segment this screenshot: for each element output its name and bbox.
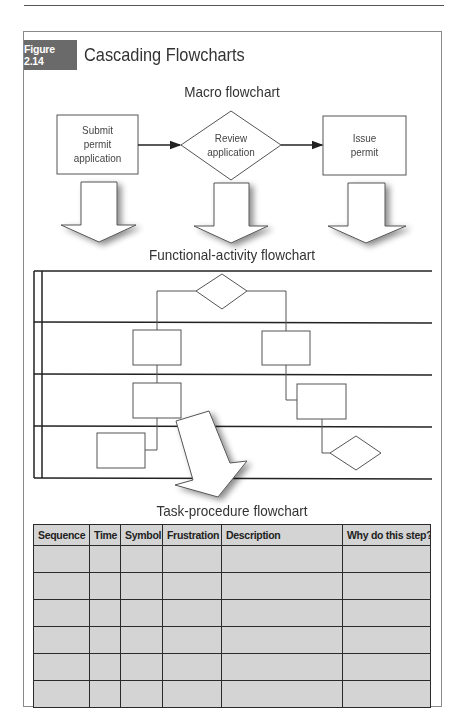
table-row <box>34 627 431 654</box>
macro-node-review-label: Review application <box>195 131 267 159</box>
table-cell <box>121 600 163 627</box>
table-cell <box>222 546 343 573</box>
label-line: Review <box>195 131 267 145</box>
table-cell <box>222 654 343 681</box>
table-cell <box>121 681 163 708</box>
activity-box-lane2-right <box>262 331 310 365</box>
label-line: application <box>61 151 134 165</box>
macro-node-issue-label: Issue permit <box>327 131 402 159</box>
column-header-frustration: Frustration <box>163 525 222 546</box>
table-row <box>34 654 431 681</box>
table-cell <box>34 600 90 627</box>
table-cell <box>90 627 121 654</box>
column-header-symbol: Symbol <box>121 525 163 546</box>
task-procedure-table: Sequence Time Symbol Frustration Descrip… <box>33 524 431 708</box>
table-cell <box>163 546 222 573</box>
task-flowchart-title: Task-procedure flowchart <box>151 502 313 519</box>
activity-box-lane3-right <box>297 384 346 419</box>
cascade-down-arrow-2 <box>194 183 268 243</box>
table-cell <box>222 681 343 708</box>
table-cell <box>90 654 121 681</box>
activity-decision-top <box>196 274 247 309</box>
label-line: application <box>195 145 267 159</box>
functional-connectors <box>145 291 330 453</box>
table-cell <box>163 573 222 600</box>
label-line: permit <box>327 145 402 159</box>
table-cell <box>90 546 121 573</box>
table-row <box>34 546 431 573</box>
column-header-why: Why do this step? <box>343 525 431 546</box>
table-cell <box>163 627 222 654</box>
table-cell <box>34 573 90 600</box>
column-header-sequence: Sequence <box>34 525 90 546</box>
label-line: Issue <box>327 131 402 145</box>
table-cell <box>121 654 163 681</box>
label-line: Submit <box>61 123 134 137</box>
table-cell <box>222 573 343 600</box>
table-row <box>34 600 431 627</box>
cascade-down-arrow-3 <box>328 183 406 243</box>
label-line: permit <box>61 137 134 151</box>
table-row <box>34 681 431 708</box>
table-header-row: Sequence Time Symbol Frustration Descrip… <box>34 525 431 546</box>
table-cell <box>343 573 431 600</box>
table-cell <box>163 654 222 681</box>
activity-decision-lane4 <box>330 436 381 470</box>
table-cell <box>34 681 90 708</box>
activity-box-lane2-left <box>133 330 181 365</box>
table-cell <box>34 627 90 654</box>
table-cell <box>121 573 163 600</box>
table-cell <box>121 546 163 573</box>
functional-flowchart-title: Functional-activity flowchart <box>142 246 322 263</box>
table-cell <box>90 600 121 627</box>
table-cell <box>343 600 431 627</box>
table-cell <box>163 681 222 708</box>
table-cell <box>222 627 343 654</box>
table-row <box>34 573 431 600</box>
table-cell <box>343 627 431 654</box>
column-header-time: Time <box>90 525 121 546</box>
cascade-tilted-arrow <box>175 411 247 497</box>
table-cell <box>343 546 431 573</box>
table-cell <box>34 546 90 573</box>
macro-node-submit-label: Submit permit application <box>61 123 134 165</box>
table-cell <box>121 627 163 654</box>
column-header-description: Description <box>222 525 343 546</box>
table-cell <box>34 654 90 681</box>
cascade-down-arrow-1 <box>61 182 136 242</box>
table-cell <box>90 681 121 708</box>
table-cell <box>343 681 431 708</box>
activity-box-lane3-left <box>133 383 181 418</box>
table-cell <box>163 600 222 627</box>
table-cell <box>90 573 121 600</box>
table-cell <box>343 654 431 681</box>
table-cell <box>222 600 343 627</box>
activity-box-lane4-left <box>97 433 145 468</box>
